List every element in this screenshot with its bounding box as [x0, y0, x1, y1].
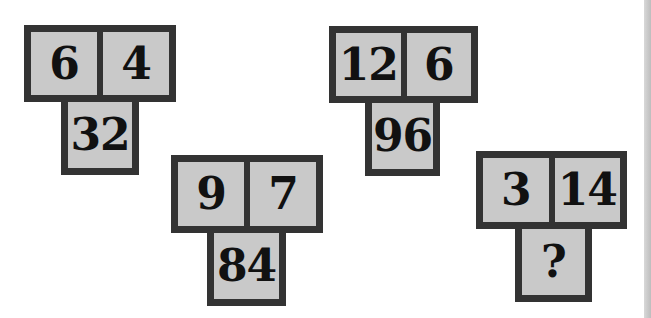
operand-a-cell: 9 — [178, 162, 244, 226]
result-cell: 96 — [372, 103, 433, 169]
operand-b-cell: 4 — [103, 32, 169, 95]
unknown-result-cell: ? — [522, 229, 585, 295]
operand-row: 12 6 — [329, 26, 478, 103]
result-box: ? — [515, 229, 592, 302]
result-cell: 32 — [68, 102, 132, 168]
operand-a-cell: 6 — [31, 32, 97, 95]
right-edge-strip — [644, 0, 651, 318]
operand-b-cell: 14 — [555, 158, 621, 222]
result-box: 84 — [207, 233, 286, 306]
operand-b-cell: 7 — [250, 162, 316, 226]
result-box: 96 — [365, 103, 440, 176]
operand-b-cell: 6 — [407, 33, 472, 96]
operand-a-cell: 12 — [336, 33, 401, 96]
puzzle-canvas: 6 4 32 9 7 84 12 6 96 3 14 ? — [0, 0, 651, 318]
operand-row: 3 14 — [476, 151, 627, 229]
operand-a-cell: 3 — [483, 158, 549, 222]
operand-row: 9 7 — [171, 155, 323, 233]
result-cell: 84 — [214, 233, 279, 299]
operand-row: 6 4 — [24, 25, 176, 102]
result-box: 32 — [61, 102, 139, 175]
